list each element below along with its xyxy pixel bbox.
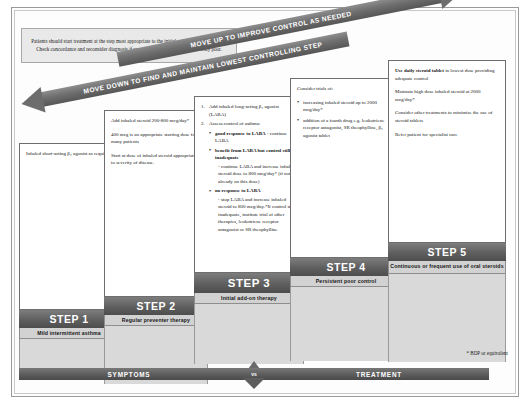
step-5-title: STEP 5 [388,243,506,261]
step-3-bullet-1-bold: benefit from LABA but control still inad… [215,148,290,161]
step-4-bullet-0: increasing inhaled steroid up to 2000 mc… [297,99,395,114]
step-3-bullet-2-bold: no response to LABA [215,188,261,193]
step-2-paragraph-0: Add inhaled steroid 200-800 mcg/day* [111,117,201,125]
step-5-paragraph-0: Use daily steroid tablet in lowest dose … [395,67,499,82]
step-5-body: Use daily steroid tablet in lowest dose … [388,60,506,243]
step-3-bullet-2-dash-0: - stop LABA and increase inhaled steroid… [215,196,297,234]
step-2-body: Add inhaled steroid 200-800 mcg/day* 400… [104,110,208,297]
step-5-paragraph-1: Maintain high dose inhaled steroid at 20… [395,88,499,103]
step-2-paragraph-2: Start at dose of inhaled steroid appropr… [111,152,201,167]
asthma-stepwise-management-diagram: Patients should start treatment at the s… [0,0,532,405]
step-column-4: Consider trials of: increasing inhaled s… [290,78,402,361]
step-4-tail [290,287,402,361]
step-3-numbered-list: 1. Add inhaled long-acting β₂ agonist (L… [201,103,297,233]
step-3-item-1-number: 2. [201,120,205,128]
step-4-bullet-list: increasing inhaled steroid up to 2000 mc… [297,99,395,140]
step-5-paragraph-3: Refer patient for specialist care [395,131,499,139]
step-5-paragraph-0-bold: Use daily steroid tablet [395,68,444,73]
step-4-subtitle: Persistent poor control [290,276,402,287]
step-5-subtitle: Continuous or frequent use of oral stero… [388,261,506,274]
step-column-5: Use daily steroid tablet in lowest dose … [388,60,506,362]
step-2-subtitle: Regular preventer therapy [104,315,208,326]
step-5-paragraph-2: Consider other treatments to minimise th… [395,109,499,124]
step-column-2: Add inhaled steroid 200-800 mcg/day* 400… [104,110,208,384]
step-column-3: 1. Add inhaled long-acting β₂ agonist (L… [194,96,304,364]
fulcrum-icon [243,378,265,389]
step-3-tail [194,304,304,364]
step-2-paragraph-1: 400 mcg is an appropriate starting dose … [111,131,201,146]
balance-right-label: TREATMENT [269,371,489,378]
step-3-item-0-text: Add inhaled long-acting β₂ agonist (LABA… [209,104,279,117]
step-3-body: 1. Add inhaled long-acting β₂ agonist (L… [194,96,304,273]
step-3-bullet-2: no response to LABA - stop LABA and incr… [209,187,297,233]
step-3-item-0: 1. Add inhaled long-acting β₂ agonist (L… [201,103,297,118]
balance-left-label: SYMPTOMS [19,371,239,378]
balance-vs-label: vs [239,371,269,377]
arrow-head-left-icon [19,87,46,117]
step-3-bullet-1: benefit from LABA but control still inad… [209,147,297,186]
step-3-item-1: 2. Assess control of asthma: good respon… [201,120,297,233]
step-3-bullet-list: good response to LABA - continue LABA be… [209,130,297,234]
step-3-title: STEP 3 [194,273,304,293]
step-4-body: Consider trials of: increasing inhaled s… [290,78,402,258]
step-3-item-1-text: Assess control of asthma: [209,121,260,126]
step-3-bullet-1-dash-0: - continue LABA and increase inhaled ste… [215,163,297,186]
step-3-bullet-0: good response to LABA - continue LABA [209,130,297,145]
step-2-title: STEP 2 [104,297,208,315]
step-4-title: STEP 4 [290,258,402,276]
step-4-lead: Consider trials of: [297,85,395,93]
footnote-text: * BDP or equivalent [466,350,508,356]
step-3-subtitle: Initial add-on therapy [194,293,304,304]
step-5-tail [388,274,506,362]
step-3-bullet-0-bold: good response to LABA [215,131,266,136]
step-1-paragraph-0: Inhaled short-acting β₂ agonist as requi… [26,150,112,158]
step-4-bullet-1: addition of a fourth drug e.g. leukotrie… [297,117,395,140]
step-3-item-0-number: 1. [201,103,205,111]
